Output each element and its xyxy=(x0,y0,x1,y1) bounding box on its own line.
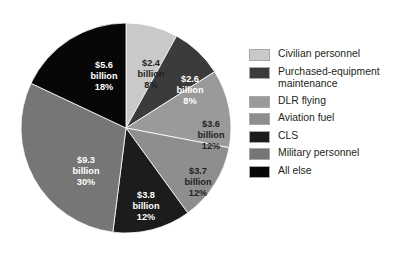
legend-item-label: Aviation fuel xyxy=(278,112,334,124)
legend-item[interactable]: DLR flying xyxy=(249,95,396,108)
legend-color-swatch xyxy=(249,67,270,79)
legend-item[interactable]: CLS xyxy=(249,130,396,143)
legend-item-label: Purchased-equipment maintenance xyxy=(278,66,380,91)
legend-color-swatch xyxy=(249,96,270,108)
pie-chart-svg: $2.4billion8%$2.6billion8%$3.6billion12%… xyxy=(18,10,236,246)
pie-chart-plot-area: $2.4billion8%$2.6billion8%$3.6billion12%… xyxy=(18,10,236,246)
legend-color-swatch xyxy=(249,49,270,61)
legend-item[interactable]: All else xyxy=(249,165,396,178)
legend-item-label: DLR flying xyxy=(278,95,326,107)
legend-item[interactable]: Purchased-equipment maintenance xyxy=(249,66,396,91)
legend-item-label: CLS xyxy=(278,130,298,142)
legend-item[interactable]: Civilian personnel xyxy=(249,48,396,61)
chart-legend: Civilian personnelPurchased-equipment ma… xyxy=(249,48,396,182)
legend-color-swatch xyxy=(249,166,270,178)
legend-color-swatch xyxy=(249,113,270,125)
legend-item-label: All else xyxy=(278,165,312,177)
pie-chart-figure: $2.4billion8%$2.6billion8%$3.6billion12%… xyxy=(0,0,396,255)
legend-color-swatch xyxy=(249,131,270,143)
legend-item[interactable]: Military personnel xyxy=(249,147,396,160)
legend-item[interactable]: Aviation fuel xyxy=(249,112,396,125)
legend-item-label: Military personnel xyxy=(278,147,359,159)
pie-slice-group xyxy=(21,23,231,233)
legend-color-swatch xyxy=(249,148,270,160)
legend-item-label: Civilian personnel xyxy=(278,48,360,60)
